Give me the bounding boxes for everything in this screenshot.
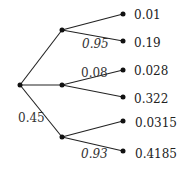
leaf-node	[121, 68, 126, 73]
leaf-node	[121, 119, 126, 124]
leaf-label: 0.322	[134, 92, 168, 106]
node-top	[60, 28, 65, 33]
leaf-node	[121, 149, 126, 154]
node-bottom	[60, 135, 65, 140]
node-middle	[60, 83, 65, 88]
leaf-node	[121, 39, 126, 44]
leaf-label: 0.19	[134, 36, 161, 50]
leaf-label: 0.01	[134, 8, 161, 22]
edge-label: 0.08	[81, 66, 108, 80]
edge-label: 0.95	[82, 37, 109, 51]
edge-label: 0.45	[18, 111, 45, 125]
probability-tree: 0.95 0.08 0.45 0.93 0.01 0.19 0.028 0.32…	[0, 0, 178, 172]
leaf-label: 0.4185	[135, 147, 177, 161]
leaf-node	[121, 95, 126, 100]
leaf-label: 0.0315	[135, 116, 177, 130]
edge-label: 0.93	[81, 147, 108, 161]
leaf-node	[121, 12, 126, 17]
leaf-label: 0.028	[134, 64, 168, 78]
root-node	[18, 83, 23, 88]
